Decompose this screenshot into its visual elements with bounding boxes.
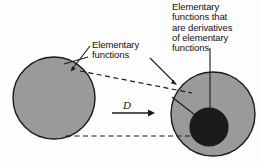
dashed-upper-connector xyxy=(80,71,192,93)
venn-diagram-figure: Elementary functions that are derivative… xyxy=(0,0,261,166)
label-elementary-functions: Elementary functions xyxy=(92,40,139,61)
label-derivative-functions: Elementary functions that are derivative… xyxy=(172,2,232,53)
left-set-circle xyxy=(13,57,95,139)
leader-line-right xyxy=(150,58,174,82)
operator-arrow-head xyxy=(148,110,155,117)
label-derivative-operator: D xyxy=(123,99,131,111)
